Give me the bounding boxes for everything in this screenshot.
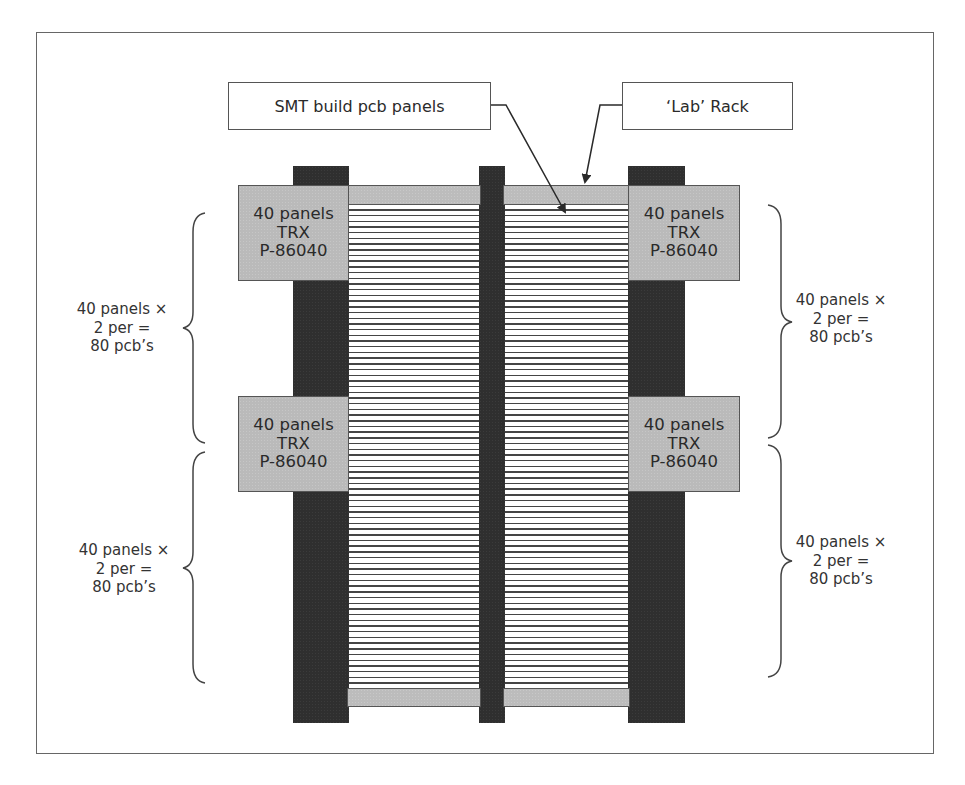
curly-bracket-lower-right-icon <box>768 445 792 677</box>
curly-bracket-upper-left-icon <box>183 213 205 443</box>
curly-bracket-upper-right-icon <box>768 205 792 438</box>
curly-bracket-lower-left-icon <box>183 452 205 683</box>
smt-callout-arrow-icon <box>491 105 565 212</box>
diagram-overlay <box>0 0 965 785</box>
lab-rack-callout-arrow-icon <box>585 105 622 182</box>
